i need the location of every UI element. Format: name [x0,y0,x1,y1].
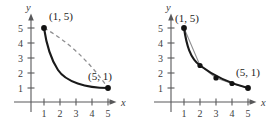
y-tick-label-2: 2 [158,68,163,79]
sample-point-x2 [197,63,202,68]
y-tick-label-3: 3 [158,53,163,64]
y-axis-label: y [25,2,31,13]
x-axis-arrowhead [110,99,117,105]
right-plot-svg: 1 2 3 4 5 1 2 3 4 5 y x (1, 5) [140,0,279,130]
left-plot-svg: 1 2 3 4 5 1 2 3 4 5 y x (1, 5) (5, 1) [0,0,139,130]
y-tick-label-4: 4 [158,38,163,49]
y-tick-label-2: 2 [18,68,23,79]
point-label-start-right: (1, 5) [175,12,199,25]
x-tick-label-1: 1 [42,108,47,119]
y-axis-label: y [165,2,171,13]
chart-panel-left: 1 2 3 4 5 1 2 3 4 5 y x (1, 5) (5, 1) [0,0,139,130]
x-tick-label-2: 2 [58,108,63,119]
x-axis-left [14,99,117,105]
point-label-start-left: (1, 5) [49,10,73,23]
y-tick-label-1: 1 [158,83,163,94]
x-tick-label-3: 3 [214,108,219,119]
point-label-end-right: (5, 1) [236,66,260,79]
endpoint-start-left [41,25,47,31]
y-axis-arrowhead [168,14,174,21]
sample-point-x1 [181,25,187,31]
y-tick-label-3: 3 [18,53,23,64]
x-tick-label-2: 2 [198,108,203,119]
x-tick-label-5: 5 [246,108,251,119]
y-tick-label-5: 5 [18,23,23,34]
y-tick-label-1: 1 [18,83,23,94]
sample-point-x5 [245,85,251,91]
x-tick-label-4: 4 [90,108,95,119]
endpoint-end-left [105,85,111,91]
sample-point-x4 [229,81,234,86]
y-tick-label-5: 5 [158,23,163,34]
x-axis-right [154,99,257,105]
x-axis-label: x [120,97,126,108]
x-axis-arrowhead [250,99,257,105]
x-tick-label-4: 4 [230,108,235,119]
point-label-end-left: (5, 1) [88,70,112,83]
x-axis-label: x [260,97,266,108]
figure-root: 1 2 3 4 5 1 2 3 4 5 y x (1, 5) (5, 1) [0,0,279,130]
x-tick-label-5: 5 [106,108,111,119]
y-axis-arrowhead [28,14,34,21]
y-tick-label-4: 4 [18,38,23,49]
x-tick-label-1: 1 [182,108,187,119]
chart-panel-right: 1 2 3 4 5 1 2 3 4 5 y x (1, 5) [140,0,279,130]
sample-point-x3 [213,75,218,80]
x-tick-label-3: 3 [74,108,79,119]
